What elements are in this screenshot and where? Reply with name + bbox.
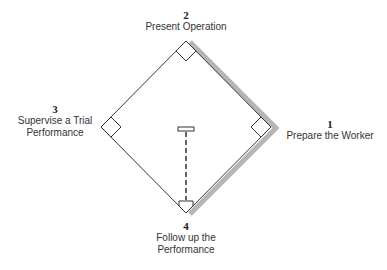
base-3-number: 3 [10, 103, 100, 115]
base-3-text-line1: Supervise a Trial [10, 115, 100, 127]
base-1-text: Prepare the Worker [280, 130, 380, 142]
pitchers-plate-icon [178, 127, 194, 131]
base-3-label: 3 Supervise a Trial Performance [10, 103, 100, 139]
base-4-number: 4 [141, 220, 231, 232]
base-2-number: 2 [136, 9, 236, 21]
base-4-label: 4 Follow up the Performance [141, 220, 231, 256]
base-4-text-line2: Performance [141, 244, 231, 256]
base-2-text: Present Operation [136, 21, 236, 33]
base-3-text-line2: Performance [10, 127, 100, 139]
base-2-label: 2 Present Operation [136, 9, 236, 33]
base-1-label: 1 Prepare the Worker [280, 118, 380, 142]
base-4-text-line1: Follow up the [141, 232, 231, 244]
base-1-number: 1 [280, 118, 380, 130]
